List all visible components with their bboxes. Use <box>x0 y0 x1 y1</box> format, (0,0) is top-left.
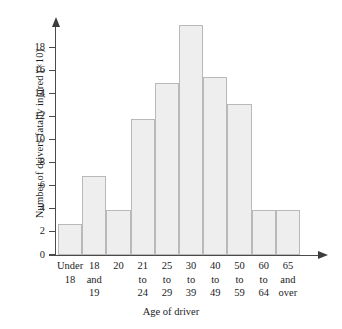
y-axis-tick-label: 12 <box>21 111 45 121</box>
bar <box>131 119 155 255</box>
x-axis-title: Age of driver <box>0 306 342 317</box>
y-axis-tick-label: 8 <box>21 157 45 167</box>
bar <box>276 210 300 255</box>
y-axis-tick-label: 0 <box>21 250 45 260</box>
y-axis-tick <box>49 254 56 255</box>
bar <box>82 176 106 255</box>
y-axis-tick <box>49 185 56 186</box>
bar <box>58 224 82 255</box>
y-axis-tick <box>49 70 56 71</box>
y-axis-tick <box>49 116 56 117</box>
y-axis-tick-label: 4 <box>21 203 45 213</box>
bar <box>227 104 251 255</box>
bar <box>179 25 203 255</box>
x-axis-arrow-icon <box>318 251 328 259</box>
y-axis-tick-label: 16 <box>21 65 45 75</box>
y-axis-tick <box>49 93 56 94</box>
y-axis-tick <box>49 231 56 232</box>
y-axis-tick <box>49 139 56 140</box>
plot-area: 024681012141618 Under 1818 and 192021 to… <box>0 0 342 329</box>
bar-chart: Number of drivers fatally injured (×10) … <box>0 0 342 329</box>
bar <box>106 210 130 255</box>
y-axis-tick-label: 2 <box>21 226 45 236</box>
y-axis-tick <box>49 208 56 209</box>
y-axis-arrow-icon <box>52 17 60 27</box>
y-axis-tick-label: 14 <box>21 88 45 98</box>
y-axis-line <box>55 26 56 256</box>
bar <box>155 83 179 255</box>
y-axis-tick-label: 6 <box>21 180 45 190</box>
x-axis-tick-label: 65 and over <box>267 259 309 300</box>
bar <box>252 210 276 255</box>
y-axis-tick-label: 18 <box>21 42 45 52</box>
y-axis-tick <box>49 162 56 163</box>
bar <box>203 77 227 255</box>
y-axis-tick <box>49 47 56 48</box>
y-axis-tick-label: 10 <box>21 134 45 144</box>
